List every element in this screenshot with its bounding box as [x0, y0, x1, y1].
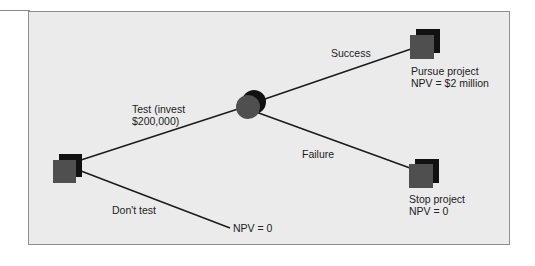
- pursue-project-label: Pursue project: [411, 65, 479, 77]
- stop-project-label: Stop project: [409, 193, 465, 205]
- dont-test-branch-label: Don't test: [112, 204, 156, 216]
- test-branch-label-line1: Test (invest: [132, 103, 185, 115]
- stop-project-npv-label: NPV = 0: [409, 205, 448, 217]
- pursue-project-node-icon: [410, 29, 440, 59]
- stop-project-node-icon: [409, 159, 439, 188]
- pursue-project-npv-label: NPV = $2 million: [411, 77, 489, 89]
- no-test-npv-label: NPV = 0: [233, 222, 272, 234]
- test-branch-label-line2: $200,000): [132, 115, 179, 127]
- failure-branch-label: Failure: [302, 148, 334, 160]
- decision-node-icon: [53, 154, 82, 183]
- branch-dont-test-line: [81, 171, 230, 228]
- success-branch-label: Success: [331, 47, 371, 59]
